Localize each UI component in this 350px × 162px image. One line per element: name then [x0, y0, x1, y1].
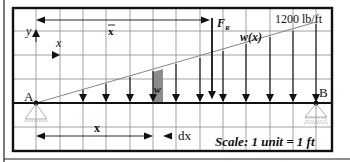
position-arrow-right — [144, 133, 153, 140]
differential-label: dx — [178, 128, 192, 143]
differential-arrow — [163, 133, 172, 140]
support-a-pin — [34, 101, 39, 106]
support-b-label: B — [319, 85, 328, 100]
beam-load-diagram: w FR x 1200 lb/ft w(x) y x A B — [0, 0, 350, 162]
centroid-distance-label: x — [108, 25, 114, 37]
scale-label: Scale: 1 unit = 1 ft — [215, 134, 315, 149]
centroid-arrow-left — [36, 17, 45, 24]
y-axis-label: y — [25, 24, 32, 38]
element-label: w — [154, 84, 161, 95]
position-label: x — [94, 121, 100, 135]
grid — [13, 8, 332, 151]
diagram-border — [13, 8, 332, 151]
load-arrows — [83, 24, 316, 101]
load-intensity-label: 1200 lb/ft — [275, 12, 323, 26]
y-axis-arrow-icon — [32, 29, 40, 37]
support-b-pin — [314, 101, 319, 106]
support-a-label: A — [24, 89, 34, 104]
x-axis-label: x — [55, 36, 62, 50]
load-function-label: w(x) — [240, 30, 262, 44]
centroid-arrow-right — [201, 17, 210, 24]
x-axis-arrow-icon — [52, 51, 60, 59]
resultant-force-label: FR — [216, 16, 230, 32]
position-arrow-left — [36, 133, 45, 140]
